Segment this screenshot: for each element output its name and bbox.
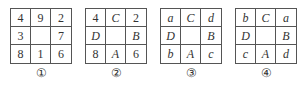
cell bbox=[31, 27, 51, 45]
cell: A bbox=[106, 45, 126, 63]
cell: B bbox=[201, 27, 221, 45]
cell: b bbox=[236, 9, 256, 27]
cell: 2 bbox=[126, 9, 146, 27]
cell: B bbox=[126, 27, 146, 45]
cell: A bbox=[256, 45, 276, 63]
panel-label: ② bbox=[85, 66, 147, 81]
cell bbox=[256, 27, 276, 45]
grid-3: a C d D B b A c bbox=[160, 8, 222, 64]
panel-1: 4 9 2 3 7 8 1 6 ① bbox=[10, 8, 72, 64]
cell: 6 bbox=[126, 45, 146, 63]
cell: a bbox=[276, 9, 296, 27]
cell: 6 bbox=[51, 45, 71, 63]
grid-2: 4 C 2 D B 8 A 6 bbox=[85, 8, 147, 64]
cell: b bbox=[161, 45, 181, 63]
cell: a bbox=[161, 9, 181, 27]
cell: D bbox=[236, 27, 256, 45]
panel-label: ③ bbox=[160, 66, 222, 81]
cell: 1 bbox=[31, 45, 51, 63]
cell: C bbox=[256, 9, 276, 27]
panel-2: 4 C 2 D B 8 A 6 ② bbox=[85, 8, 147, 64]
cell: C bbox=[106, 9, 126, 27]
cell: 7 bbox=[51, 27, 71, 45]
cell: d bbox=[276, 45, 296, 63]
panel-label: ④ bbox=[235, 66, 297, 81]
cell: d bbox=[201, 9, 221, 27]
panel-label: ① bbox=[10, 66, 72, 81]
cell: 3 bbox=[11, 27, 31, 45]
cell: D bbox=[161, 27, 181, 45]
panel-4: b C a D B c A d ④ bbox=[235, 8, 297, 64]
cell: 8 bbox=[11, 45, 31, 63]
cell: c bbox=[201, 45, 221, 63]
cell: A bbox=[181, 45, 201, 63]
cell: B bbox=[276, 27, 296, 45]
cell: 2 bbox=[51, 9, 71, 27]
cell bbox=[181, 27, 201, 45]
cell: 4 bbox=[11, 9, 31, 27]
cell: 9 bbox=[31, 9, 51, 27]
cell: C bbox=[181, 9, 201, 27]
panel-3: a C d D B b A c ③ bbox=[160, 8, 222, 64]
grid-4: b C a D B c A d bbox=[235, 8, 297, 64]
cell: D bbox=[86, 27, 106, 45]
grid-1: 4 9 2 3 7 8 1 6 bbox=[10, 8, 72, 64]
cell bbox=[106, 27, 126, 45]
cell: 8 bbox=[86, 45, 106, 63]
cell: 4 bbox=[86, 9, 106, 27]
cell: c bbox=[236, 45, 256, 63]
